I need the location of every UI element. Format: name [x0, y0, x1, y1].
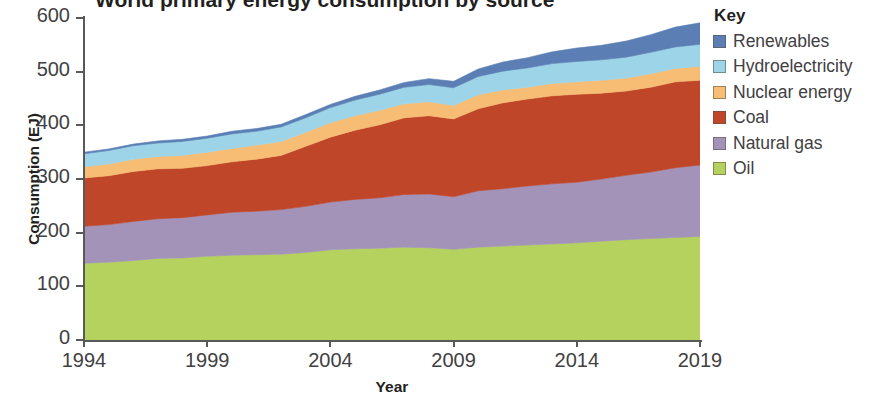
legend-items: RenewablesHydroelectricityNuclear energy…	[713, 30, 868, 180]
legend-item-hydroelectricity[interactable]: Hydroelectricity	[713, 56, 868, 78]
y-tick-label-600: 600	[8, 4, 70, 27]
x-axis-line	[83, 340, 702, 342]
x-tick-2014	[576, 341, 578, 347]
y-tick-label-300: 300	[8, 165, 70, 188]
x-tick-2009	[453, 341, 455, 347]
y-tick-label-100: 100	[8, 272, 70, 295]
chart-container: World primary energy consumption by sour…	[0, 0, 870, 406]
plot-area	[84, 18, 700, 340]
y-tick-label-0: 0	[8, 326, 70, 349]
y-tick-300	[76, 178, 84, 180]
x-tick-2019	[699, 341, 701, 347]
x-tick-label-2014: 2014	[532, 349, 622, 372]
x-tick-label-1999: 1999	[162, 349, 252, 372]
legend-swatch-natural-gas	[713, 137, 726, 150]
y-tick-label-400: 400	[8, 111, 70, 134]
y-tick-label-500: 500	[8, 58, 70, 81]
legend-swatch-hydroelectricity	[713, 60, 726, 73]
x-tick-label-2019: 2019	[655, 349, 745, 372]
legend-label-nuclear-energy: Nuclear energy	[733, 83, 852, 102]
legend: Key RenewablesHydroelectricityNuclear en…	[713, 6, 868, 183]
y-tick-500	[76, 71, 84, 73]
y-tick-600	[76, 17, 84, 19]
legend-label-natural-gas: Natural gas	[733, 134, 823, 153]
page-title: World primary energy consumption by sour…	[95, 0, 554, 12]
x-tick-label-1994: 1994	[39, 349, 129, 372]
x-axis-title: Year	[84, 378, 700, 396]
legend-item-oil[interactable]: Oil	[713, 158, 868, 180]
x-tick-1999	[206, 341, 208, 347]
legend-title: Key	[714, 6, 868, 26]
legend-label-hydroelectricity: Hydroelectricity	[733, 57, 853, 76]
x-tick-1994	[83, 341, 85, 347]
legend-item-coal[interactable]: Coal	[713, 107, 868, 129]
legend-item-renewables[interactable]: Renewables	[713, 30, 868, 52]
y-tick-400	[76, 124, 84, 126]
x-tick-2004	[329, 341, 331, 347]
legend-label-renewables: Renewables	[733, 32, 829, 51]
y-tick-label-200: 200	[8, 219, 70, 242]
y-tick-100	[76, 285, 84, 287]
legend-label-oil: Oil	[733, 159, 754, 178]
legend-item-nuclear-energy[interactable]: Nuclear energy	[713, 81, 868, 103]
x-tick-label-2009: 2009	[409, 349, 499, 372]
legend-swatch-oil	[713, 162, 726, 175]
legend-swatch-renewables	[713, 35, 726, 48]
stacked-area-svg	[84, 18, 700, 340]
legend-swatch-nuclear-energy	[713, 86, 726, 99]
legend-item-natural-gas[interactable]: Natural gas	[713, 132, 868, 154]
y-tick-200	[76, 232, 84, 234]
legend-label-coal: Coal	[733, 108, 769, 127]
x-tick-label-2004: 2004	[285, 349, 375, 372]
legend-swatch-coal	[713, 111, 726, 124]
